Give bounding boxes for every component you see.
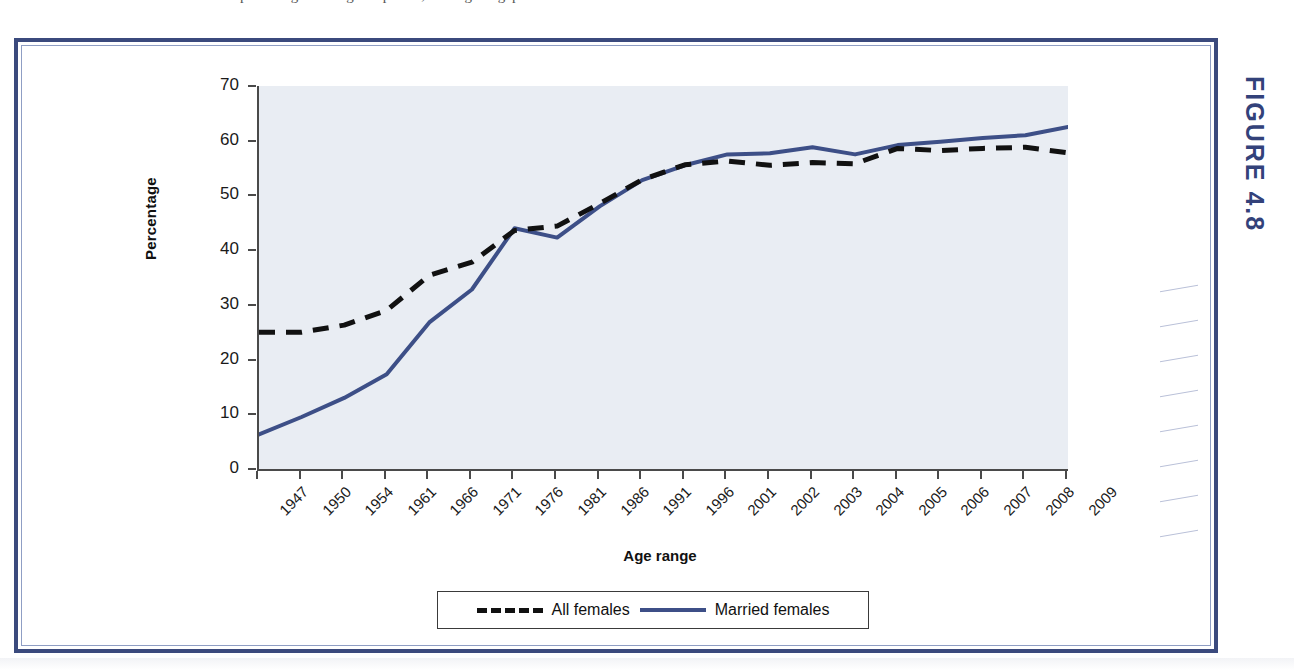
y-tick-mark (248, 140, 256, 142)
y-tick-mark (248, 468, 256, 470)
chart-area: Percentage 010203040506070 1947195019541… (18, 42, 1222, 657)
x-tick-label: 2009 (1085, 483, 1121, 519)
legend: All females Married females (437, 591, 869, 629)
figure-tag-text: FIGURE 4.8 (1226, 76, 1284, 286)
figure-tag-rules (1160, 288, 1198, 668)
x-tick-label: 1991 (659, 483, 695, 519)
y-tick-label: 40 (199, 239, 239, 259)
x-tick-label: 1954 (361, 483, 397, 519)
y-tick-mark (248, 249, 256, 251)
x-tick-mark (810, 471, 812, 479)
legend-label-married-females: Married females (715, 601, 830, 619)
figure-tag: FIGURE 4.8 (1150, 76, 1208, 286)
x-tick-label: 1971 (489, 483, 525, 519)
x-tick-mark (426, 471, 428, 479)
y-tick-mark (248, 413, 256, 415)
x-tick-mark (256, 471, 258, 479)
x-tick-label: 2004 (872, 483, 908, 519)
x-tick-label: 1976 (531, 483, 567, 519)
y-tick-label: 30 (199, 294, 239, 314)
x-tick-mark (767, 471, 769, 479)
x-tick-label: 1996 (702, 483, 738, 519)
x-tick-label: 2007 (1000, 483, 1036, 519)
x-tick-mark (724, 471, 726, 479)
x-tick-label: 2005 (914, 483, 950, 519)
series-lines (259, 86, 1068, 469)
page-bottom-edge (0, 658, 1294, 670)
legend-swatch-dashed-icon (477, 608, 543, 613)
cut-off-body-text: percentages during this period, closing … (240, 0, 680, 4)
y-tick-mark (248, 304, 256, 306)
x-tick-label: 1986 (616, 483, 652, 519)
x-tick-mark (384, 471, 386, 479)
y-axis-title: Percentage (142, 177, 159, 260)
plot-area (257, 86, 1068, 471)
legend-item-married-females: Married females (640, 601, 830, 619)
x-tick-mark (469, 471, 471, 479)
x-tick-mark (895, 471, 897, 479)
y-tick-label: 70 (199, 75, 239, 95)
line-all-females (259, 147, 1068, 332)
y-tick-label: 50 (199, 184, 239, 204)
x-tick-mark (852, 471, 854, 479)
x-tick-label: 2008 (1042, 483, 1078, 519)
x-tick-mark (980, 471, 982, 479)
y-tick-label: 60 (199, 130, 239, 150)
x-axis-title-text: Age range (623, 547, 696, 564)
x-tick-mark (341, 471, 343, 479)
x-tick-mark (1065, 471, 1067, 479)
y-tick-mark (248, 194, 256, 196)
x-tick-mark (937, 471, 939, 479)
legend-swatch-solid-icon (640, 608, 706, 612)
figure-frame: Percentage 010203040506070 1947195019541… (14, 38, 1218, 653)
x-tick-label: 1966 (446, 483, 482, 519)
x-tick-mark (554, 471, 556, 479)
x-tick-mark (597, 471, 599, 479)
x-tick-label: 2006 (957, 483, 993, 519)
x-tick-mark (639, 471, 641, 479)
x-tick-mark (1022, 471, 1024, 479)
y-tick-mark (248, 85, 256, 87)
x-tick-label: 1950 (318, 483, 354, 519)
page-text-sliver: percentages during this period, closing … (0, 0, 1294, 14)
legend-label-all-females: All females (552, 601, 630, 619)
x-tick-mark (511, 471, 513, 479)
legend-item-all-females: All females (477, 601, 630, 619)
x-tick-label: 1961 (404, 483, 440, 519)
y-tick-label: 0 (199, 458, 239, 478)
y-tick-label: 20 (199, 349, 239, 369)
x-tick-label: 2002 (787, 483, 823, 519)
x-tick-label: 2003 (829, 483, 865, 519)
x-tick-mark (299, 471, 301, 479)
x-axis-title: Age range (18, 547, 1222, 564)
x-tick-label: 1947 (276, 483, 312, 519)
y-tick-mark (248, 359, 256, 361)
y-tick-label: 10 (199, 403, 239, 423)
x-tick-label: 1981 (574, 483, 610, 519)
x-tick-label: 2001 (744, 483, 780, 519)
x-tick-mark (682, 471, 684, 479)
